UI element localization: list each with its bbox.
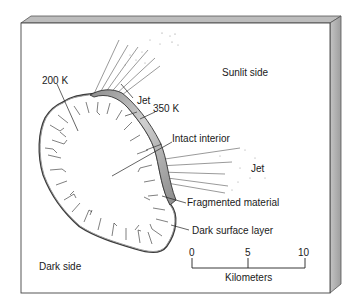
box-right-side [330, 16, 341, 293]
temp-200k-label: 200 K [42, 76, 68, 86]
scale-unit-label: Kilometers [225, 273, 272, 283]
scale-tick-10: 10 [298, 248, 309, 258]
scale-tick-0: 0 [189, 248, 195, 258]
dark-side-label: Dark side [39, 262, 81, 272]
jet-upper-label: Jet [137, 96, 150, 106]
box-top-bevel [21, 16, 341, 23]
jet-right-label: Jet [251, 164, 264, 174]
scale-tick-5: 5 [245, 248, 251, 258]
intact-interior-label: Intact interior [172, 134, 230, 144]
fragmented-material-label: Fragmented material [187, 198, 279, 208]
dark-surface-layer-label: Dark surface layer [192, 226, 273, 236]
temp-350k-label: 350 K [153, 104, 179, 114]
sunlit-side-label: Sunlit side [222, 68, 268, 78]
